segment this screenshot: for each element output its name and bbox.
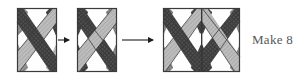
block-b xyxy=(77,8,117,72)
block-c xyxy=(163,8,240,72)
block-a xyxy=(17,8,57,72)
diagram-canvas: Make 8 xyxy=(0,0,308,80)
make-count-label: Make 8 xyxy=(252,33,293,46)
arrow-1 xyxy=(57,33,75,47)
arrow-2 xyxy=(121,33,159,47)
